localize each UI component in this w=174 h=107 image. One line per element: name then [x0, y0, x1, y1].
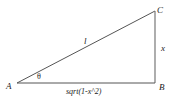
vertex-label-a: A: [5, 81, 12, 91]
vertex-label-b: B: [159, 82, 165, 92]
adjacent-label: sqrt(1-x^2): [66, 87, 102, 96]
hypotenuse-label: l: [84, 36, 87, 46]
angle-theta-label: θ: [37, 72, 41, 81]
vertex-label-c: C: [157, 5, 164, 15]
right-triangle-diagram: A B C l x sqrt(1-x^2) θ: [0, 0, 174, 107]
opposite-label: x: [160, 43, 165, 53]
